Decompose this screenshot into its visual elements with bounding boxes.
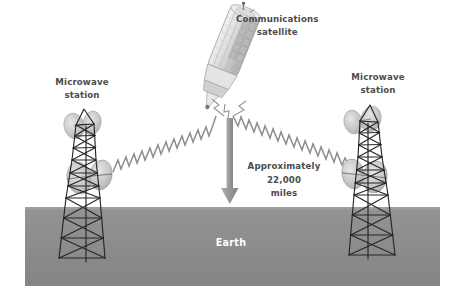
satellite-label-line2: satellite xyxy=(257,27,298,37)
altitude-label-line3: miles xyxy=(271,188,298,198)
satellite-communications-diagram: Communications satellite Microwave stati… xyxy=(0,0,462,301)
altitude-label: Approximately 22,000 miles xyxy=(236,160,332,201)
altitude-label-line1: Approximately xyxy=(248,161,321,171)
right-tower-lower-dish xyxy=(340,157,390,195)
diagram-canvas xyxy=(0,0,462,301)
satellite-label: Communications satellite xyxy=(236,13,319,38)
right-station-label-line2: station xyxy=(360,85,395,95)
uplink-signal-wave xyxy=(113,116,216,172)
right-station-label-line1: Microwave xyxy=(351,72,404,82)
right-station-label: Microwave station xyxy=(340,71,416,96)
earth-label: Earth xyxy=(0,237,462,248)
altitude-label-line2: 22,000 xyxy=(267,175,301,185)
left-station-label-line2: station xyxy=(64,90,99,100)
satellite-label-line1: Communications xyxy=(236,14,319,24)
left-station-label-line1: Microwave xyxy=(55,77,108,87)
left-station-label: Microwave station xyxy=(44,76,120,101)
